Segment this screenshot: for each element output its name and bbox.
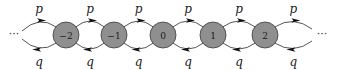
forward-prob-label: p — [86, 2, 94, 16]
backward-prob-label: q — [135, 55, 143, 69]
right-ellipsis: ··· — [317, 28, 328, 41]
state-node: −2 — [53, 22, 79, 48]
forward-prob-label: p — [184, 2, 192, 16]
backward-prob-label: q — [290, 55, 298, 69]
backward-prob-label: q — [86, 55, 94, 69]
left-ellipsis: ··· — [9, 28, 20, 41]
forward-prob-label: p — [135, 2, 143, 16]
state-node: −1 — [101, 22, 127, 48]
state-node: 0 — [150, 22, 176, 48]
backward-prob-label: q — [184, 55, 192, 69]
svg-text:0: 0 — [160, 31, 166, 41]
backward-prob-label: q — [235, 55, 243, 69]
state-nodes: −2−1012 — [53, 22, 278, 48]
markov-chain-diagram: pqpqpqpqpqpq −2−1012 ··· ··· — [0, 0, 341, 70]
forward-prob-label: p — [290, 2, 298, 16]
backward-edge — [22, 39, 56, 48]
forward-edge — [22, 22, 56, 31]
backward-prob-label: q — [35, 55, 43, 69]
state-node: 1 — [200, 22, 226, 48]
svg-text:−2: −2 — [59, 31, 72, 41]
forward-prob-label: p — [235, 2, 243, 16]
state-node: 2 — [252, 22, 278, 48]
backward-edge — [275, 41, 312, 49]
forward-edge — [275, 21, 312, 29]
svg-text:1: 1 — [210, 31, 216, 41]
svg-text:−1: −1 — [107, 31, 120, 41]
svg-text:2: 2 — [262, 31, 268, 41]
forward-prob-label: p — [35, 2, 43, 16]
